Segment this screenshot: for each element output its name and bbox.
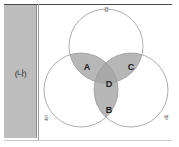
set-label-gap: 갑 <box>104 7 109 12</box>
set-label-eul: 을 <box>44 115 49 120</box>
venn-diagram: A C D B 갑 을 병 <box>39 4 179 144</box>
figure-screenshot: (나) <box>0 0 179 147</box>
bottom-divider-rule <box>4 140 172 141</box>
answer-panel-label: (나) <box>4 67 37 78</box>
set-label-byeong: 병 <box>164 115 169 120</box>
venn-diagram-svg <box>39 4 179 144</box>
answer-panel-na: (나) <box>4 5 37 138</box>
